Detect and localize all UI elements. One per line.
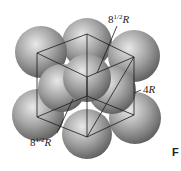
label-face-diagonal-bottom: 81/2R xyxy=(30,136,51,148)
label-face-diagonal-top: 81/2R xyxy=(108,13,129,25)
label-body-diagonal: 4R xyxy=(143,83,156,95)
fcc-unit-cell-diagram: 81/2R 4R 81/2R xyxy=(0,0,181,171)
side-caption-letter: F xyxy=(172,146,179,158)
